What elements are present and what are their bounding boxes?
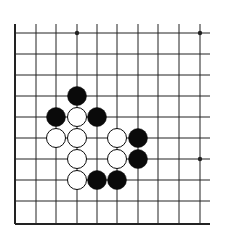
white-stone	[108, 150, 127, 169]
white-stone	[68, 129, 87, 148]
black-stone	[129, 129, 148, 148]
star-point	[75, 31, 79, 35]
star-point	[198, 157, 202, 161]
black-stone	[88, 108, 107, 127]
white-stone	[108, 129, 127, 148]
white-stone	[68, 171, 87, 190]
white-stone	[47, 129, 66, 148]
black-stone	[129, 150, 148, 169]
grid-lines	[15, 24, 210, 224]
black-stone	[108, 171, 127, 190]
black-stone	[47, 108, 66, 127]
black-stone	[68, 87, 87, 106]
white-stone	[68, 150, 87, 169]
star-point	[198, 31, 202, 35]
white-stone	[68, 108, 87, 127]
go-board	[0, 0, 226, 245]
black-stone	[88, 171, 107, 190]
